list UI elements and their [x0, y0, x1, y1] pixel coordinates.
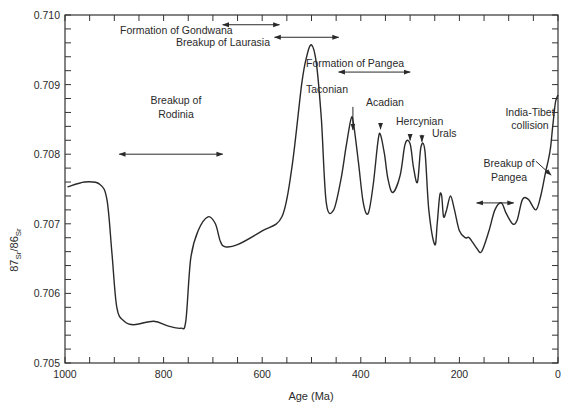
annotation-label: Formation of Gondwana [120, 24, 233, 36]
x-axis-label: Age (Ma) [288, 390, 333, 402]
y-tick-label: 0.706 [34, 287, 60, 299]
annotation-label: Urals [432, 127, 457, 139]
annotation-india-tibet-collision [536, 161, 551, 175]
x-tick-label: 0 [555, 368, 561, 380]
annotation-label: Hercynian [396, 115, 443, 127]
annotations: Formation of GondwanaBreakup of Laurasia… [119, 24, 554, 203]
y-tick-label: 0.710 [34, 9, 60, 21]
annotation-label: Taconian [306, 83, 348, 95]
annotation-label: Acadian [366, 96, 404, 108]
pointer-arrow-icon [536, 161, 551, 175]
y-tick-label: 0.705 [34, 357, 60, 369]
x-tick-label: 800 [155, 368, 173, 380]
annotation-label: Rodinia [158, 108, 194, 120]
annotation-label: India-Tibet [505, 106, 554, 118]
x-tick-label: 600 [253, 368, 271, 380]
annotation-label: Breakup of Laurasia [176, 36, 270, 48]
annotation-label: Pangea [491, 171, 527, 183]
y-tick-label: 0.708 [34, 148, 60, 160]
y-tick-label: 0.707 [34, 218, 60, 230]
x-tick-label: 1000 [53, 368, 77, 380]
y-tick-label: 0.709 [34, 79, 60, 91]
annotation-label: Breakup of [484, 157, 535, 169]
x-tick-label: 400 [352, 368, 370, 380]
annotation-label: collision [511, 119, 549, 131]
svg-text:87Sr/86Sr: 87Sr/86Sr [8, 228, 23, 272]
sr-isotope-chart: 100080060040020000.7050.7060.7070.7080.7… [0, 0, 569, 406]
x-tick-label: 200 [451, 368, 469, 380]
y-axis-label: 87Sr/86Sr [8, 228, 23, 272]
annotation-label: Breakup of [151, 94, 202, 106]
annotation-label: Formation of Pangea [306, 57, 404, 69]
axis-tick-labels: 100080060040020000.7050.7060.7070.7080.7… [34, 9, 561, 380]
